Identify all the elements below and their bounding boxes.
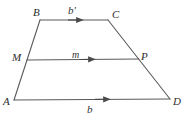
vertex-label-P: P: [141, 51, 148, 62]
side-label-b-prime: b': [68, 5, 76, 16]
vertex-label-B: B: [33, 7, 40, 18]
side-label-m: m: [72, 50, 79, 60]
side-label-b: b: [87, 104, 93, 115]
edge-AD: [14, 99, 170, 100]
vertex-label-D: D: [173, 96, 181, 107]
vertex-label-A: A: [3, 96, 10, 107]
trapezoid-drawing: [0, 0, 192, 123]
vertex-label-M: M: [12, 52, 21, 63]
vertex-label-C: C: [112, 9, 119, 20]
geometry-figure: B C M P A D b' m b: [0, 0, 192, 123]
